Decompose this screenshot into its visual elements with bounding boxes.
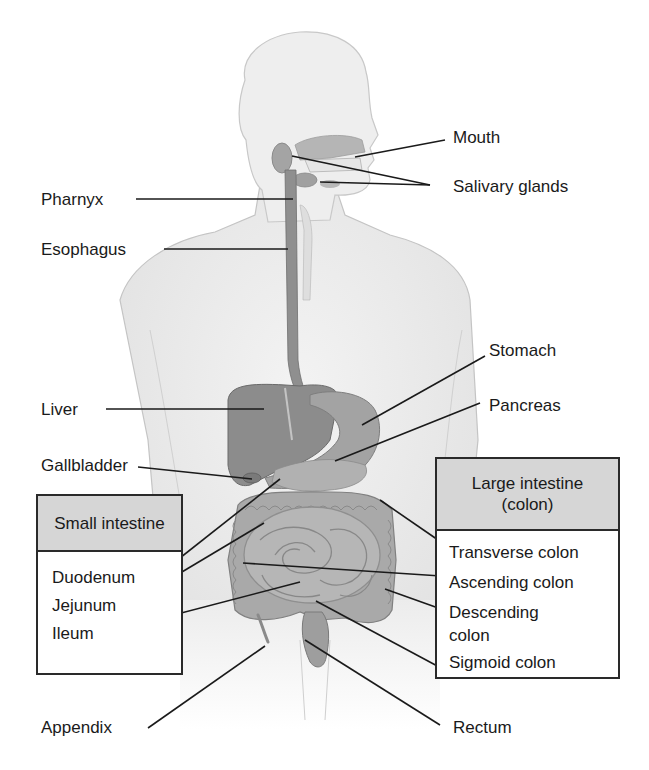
label-descending-colon-line1: Descending	[449, 603, 539, 623]
label-descending-colon-line2: colon	[449, 626, 490, 646]
digestive-system-diagram: Pharnyx Esophagus Liver Gallbladder Appe…	[0, 0, 649, 770]
label-ileum: Ileum	[52, 624, 94, 644]
label-pharnyx: Pharnyx	[41, 190, 103, 210]
label-esophagus: Esophagus	[41, 240, 126, 260]
label-pancreas: Pancreas	[489, 396, 561, 416]
label-liver: Liver	[41, 400, 78, 420]
label-mouth: Mouth	[453, 128, 500, 148]
label-ascending-colon: Ascending colon	[449, 573, 574, 593]
label-sigmoid-colon: Sigmoid colon	[449, 653, 556, 673]
large-intestine-title-line1: Large intestine	[472, 473, 584, 494]
large-intestine-title-line2: (colon)	[502, 494, 554, 515]
label-rectum: Rectum	[453, 718, 512, 738]
label-jejunum: Jejunum	[52, 596, 116, 616]
large-intestine-title: Large intestine (colon)	[437, 459, 618, 531]
label-salivary-glands: Salivary glands	[453, 177, 568, 197]
small-intestine-shape	[244, 507, 380, 603]
large-intestine-box: Large intestine (colon) Transverse colon…	[435, 457, 620, 679]
small-intestine-title: Small intestine	[38, 496, 181, 552]
label-duodenum: Duodenum	[52, 568, 135, 588]
label-gallbladder: Gallbladder	[41, 456, 128, 476]
label-stomach: Stomach	[489, 341, 556, 361]
label-appendix: Appendix	[41, 718, 112, 738]
small-intestine-box: Small intestine Duodenum Jejunum Ileum	[36, 494, 183, 675]
label-transverse-colon: Transverse colon	[449, 543, 579, 563]
